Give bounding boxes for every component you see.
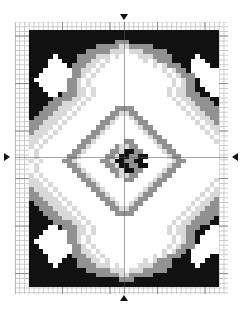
pattern-chart-stage <box>0 0 245 313</box>
center-marker-left-icon <box>4 153 10 161</box>
center-marker-bottom-icon <box>120 295 128 301</box>
center-marker-right-icon <box>232 153 238 161</box>
pattern-chart-canvas <box>29 30 219 287</box>
center-marker-top-icon <box>120 14 128 20</box>
